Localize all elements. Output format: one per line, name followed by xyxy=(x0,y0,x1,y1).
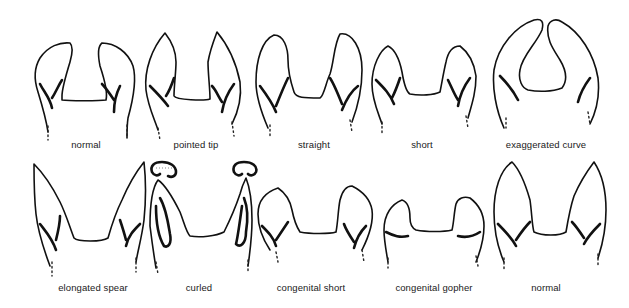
figure-curled xyxy=(150,162,256,274)
figure-normal-2 xyxy=(494,162,606,270)
label-elongated-spear: elongated spear xyxy=(58,282,128,293)
figure-congenital-gopher xyxy=(384,197,484,268)
ear-shapes-illustration xyxy=(0,0,629,308)
label-normal-2: normal xyxy=(531,282,561,293)
label-normal: normal xyxy=(71,139,101,150)
figure-exaggerated-curve xyxy=(493,19,598,128)
figure-elongated-spear xyxy=(34,162,146,276)
label-pointed-tip: pointed tip xyxy=(174,139,219,150)
label-congenital-short: congenital short xyxy=(277,282,346,293)
figure-normal xyxy=(35,43,134,140)
label-straight: straight xyxy=(298,139,330,150)
label-congenital-gopher: congenital gopher xyxy=(395,282,472,293)
figure-short xyxy=(372,46,476,134)
figure-pointed-tip xyxy=(146,32,241,140)
figure-congenital-short xyxy=(258,186,372,262)
figure-straight xyxy=(256,34,362,136)
label-short: short xyxy=(411,139,433,150)
label-exaggerated-curve: exaggerated curve xyxy=(506,139,586,150)
label-curled: curled xyxy=(186,282,212,293)
